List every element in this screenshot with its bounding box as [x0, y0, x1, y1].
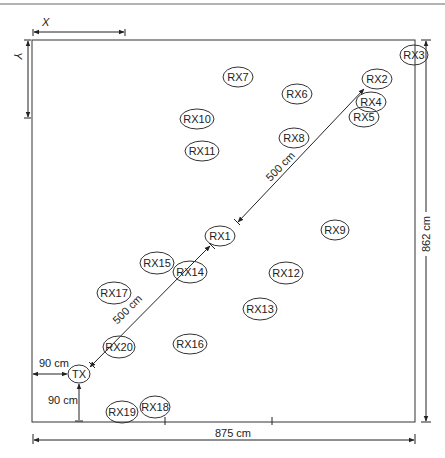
receiver-node: RX3 — [400, 45, 428, 65]
x-axis-label: X — [41, 16, 50, 28]
room-layout-diagram: X Y 862 cm 875 cm 90 cm 90 cm — [0, 0, 445, 458]
node-label: RX11 — [189, 145, 216, 157]
node-label: RX15 — [143, 257, 171, 269]
node-label: RX8 — [283, 132, 304, 144]
width-dimension: 875 cm — [33, 427, 415, 444]
node-label: RX10 — [183, 113, 211, 125]
width-dimension-label: 875 cm — [215, 427, 251, 439]
node-label: RX4 — [360, 96, 381, 108]
node-label: RX13 — [246, 303, 274, 315]
receiver-node: RX19 — [106, 401, 138, 423]
node-label: RX18 — [141, 401, 169, 413]
node-label: RX3 — [403, 49, 424, 61]
node-label: RX14 — [176, 266, 204, 278]
receiver-node: RX7 — [223, 67, 253, 87]
x-axis-indicator: X — [33, 16, 125, 36]
tx-offset-x-label: 90 cm — [39, 357, 69, 369]
node-label: RX1 — [209, 230, 230, 242]
node-label: RX5 — [353, 111, 374, 123]
receiver-node: RX17 — [97, 282, 131, 304]
y-axis-indicator: Y — [12, 40, 31, 118]
nodes: RX3RX2RX4RX5RX7RX6RX10RX11RX8RX1RX9RX15R… — [68, 45, 428, 423]
tx-offset-x-dimension: 90 cm — [33, 357, 69, 374]
receiver-node: RX16 — [173, 334, 207, 354]
receiver-node: RX6 — [282, 84, 312, 104]
node-label: RX16 — [176, 338, 204, 350]
tx-offset-y-dimension: 90 cm — [48, 384, 83, 421]
receiver-node: RX1 — [205, 226, 235, 246]
rx1-to-rx2-dimension: 500 cm — [234, 89, 364, 225]
receiver-node: RX14 — [173, 261, 207, 283]
height-dimension: 862 cm — [419, 40, 433, 422]
receiver-node: RX11 — [185, 141, 219, 161]
transmitter-node: TX — [68, 365, 90, 383]
node-label: RX9 — [324, 224, 345, 236]
node-label: RX6 — [286, 88, 307, 100]
receiver-node: RX12 — [269, 262, 303, 284]
receiver-node: RX5 — [349, 107, 379, 127]
receiver-node: RX4 — [356, 92, 386, 112]
node-label: TX — [72, 368, 87, 380]
receiver-node: RX8 — [279, 128, 309, 148]
receiver-node: RX9 — [321, 220, 349, 240]
node-label: RX17 — [100, 287, 128, 299]
receiver-node: RX2 — [362, 69, 392, 89]
receiver-node: RX10 — [180, 109, 214, 129]
node-label: RX2 — [366, 73, 387, 85]
node-label: RX7 — [227, 71, 248, 83]
receiver-node: RX20 — [103, 336, 135, 358]
node-label: RX19 — [108, 406, 136, 418]
receiver-node: RX18 — [140, 396, 170, 418]
y-axis-label: Y — [12, 52, 24, 60]
node-label: RX12 — [272, 267, 300, 279]
tx-offset-y-label: 90 cm — [48, 394, 78, 406]
receiver-node: RX15 — [140, 252, 174, 274]
height-dimension-label: 862 cm — [420, 216, 432, 252]
node-label: RX20 — [105, 341, 133, 353]
receiver-node: RX13 — [243, 298, 277, 320]
